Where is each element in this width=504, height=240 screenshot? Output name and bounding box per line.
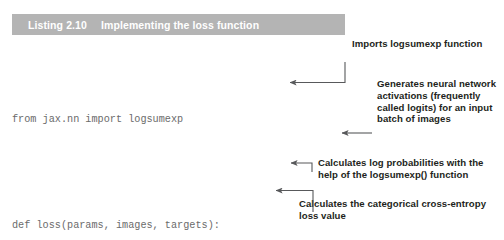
code-line: from jax.nn import logsumexp [12,111,312,129]
listing-header-text: Listing 2.10Implementing the loss functi… [28,19,259,31]
listing-header-bar: Listing 2.10Implementing the loss functi… [12,14,345,35]
listing-title: Implementing the loss function [101,19,259,31]
code-line-blank [12,164,312,182]
annotation-loss-value: Calculates the categorical cross-entropy… [299,198,499,222]
annotation-imports-logsumexp: Imports logsumexp function [352,38,500,50]
code-block: from jax.nn import logsumexp def loss(pa… [12,76,312,240]
code-line: def loss(params, images, targets): [12,217,312,235]
listing-number: Listing 2.10 [28,19,87,31]
annotation-generates-activations: Generates neural network activations (fr… [377,78,503,125]
annotation-log-probabilities: Calculates log probabilities with the he… [318,157,504,181]
